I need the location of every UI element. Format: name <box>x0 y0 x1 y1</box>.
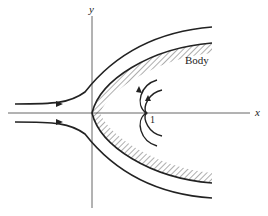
body-label: Body <box>185 54 209 66</box>
y-axis-label: y <box>88 3 94 15</box>
inner-arrow-icon <box>136 86 142 93</box>
flow-diagram: y x Body 1 <box>0 0 268 216</box>
point-one-label: 1 <box>150 114 155 125</box>
x-axis-label: x <box>254 106 260 118</box>
axes <box>8 16 250 208</box>
stagnation-point <box>144 111 147 114</box>
